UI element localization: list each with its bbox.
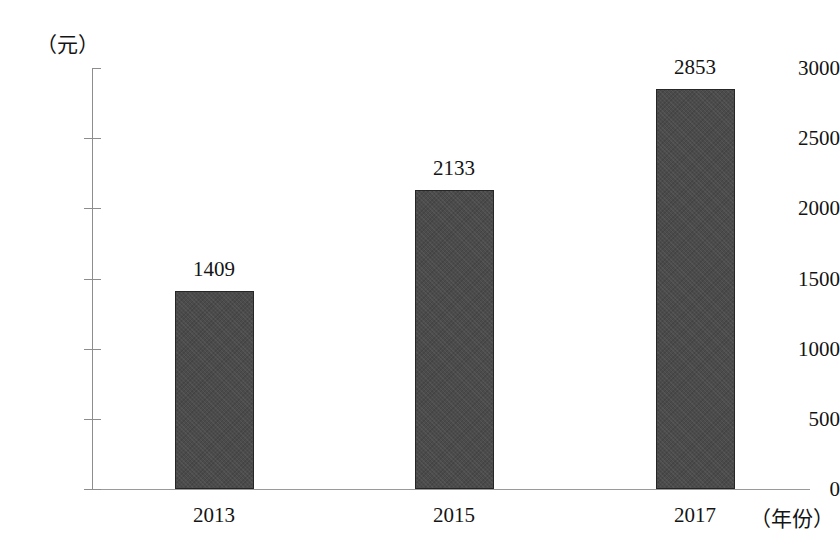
x-axis-label-2017: 2017: [674, 503, 716, 528]
bar-2017[interactable]: [656, 89, 735, 489]
bar-value-label: 2853: [674, 55, 716, 80]
x-axis-label-2015: 2015: [433, 503, 475, 528]
bar-2013[interactable]: [175, 291, 254, 489]
y-axis-title: （元）: [36, 28, 99, 58]
y-axis-tick: [84, 489, 101, 490]
bar-2015[interactable]: [415, 190, 494, 489]
bar-chart: （元） （年份） 050010001500200025003000 201320…: [0, 0, 840, 560]
x-axis-title: （年份）: [750, 502, 834, 532]
x-axis-line: [92, 489, 810, 490]
bar-value-label: 1409: [193, 257, 235, 282]
x-axis-label-2013: 2013: [193, 503, 235, 528]
bar-value-label: 2133: [433, 156, 475, 181]
